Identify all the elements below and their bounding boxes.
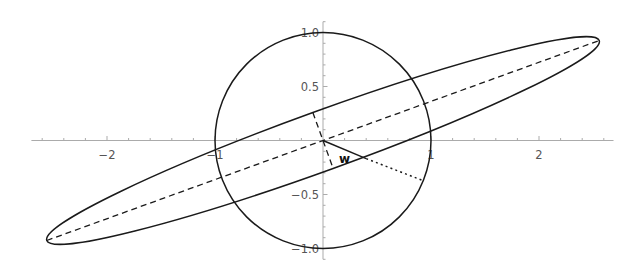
x-tick-label: 2 bbox=[535, 148, 542, 162]
y-tick-label: 0.5 bbox=[301, 80, 319, 94]
vector-w-label: w bbox=[339, 152, 350, 166]
y-tick-label: −0.5 bbox=[291, 188, 319, 202]
plot-background bbox=[0, 0, 639, 268]
x-tick-label: −2 bbox=[99, 148, 116, 162]
plot-canvas: −2−1121.00.5−0.5−1.0w bbox=[0, 0, 639, 268]
